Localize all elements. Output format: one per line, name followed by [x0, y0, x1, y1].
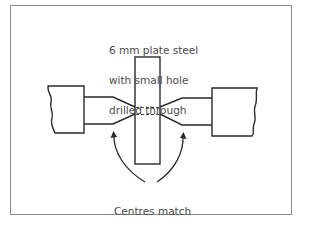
centres-label: Centres match up with hole [114, 186, 191, 228]
left-arrowhead-icon [111, 131, 118, 138]
plate-label-line-1: 6 mm plate steel [109, 45, 198, 55]
plate-label: 6 mm plate steel with small hole drilled… [109, 25, 198, 125]
right-arrow [157, 135, 183, 182]
plate-label-line-2: with small hole [109, 75, 198, 85]
plate-label-line-3: drilled through [109, 105, 198, 115]
right-arrowhead-icon [180, 132, 187, 139]
centres-label-line-1: Centres match [114, 206, 191, 216]
